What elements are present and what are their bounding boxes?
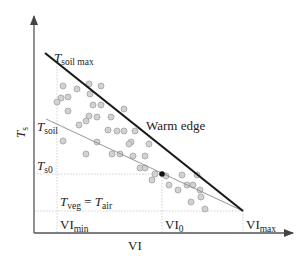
label-vimax: VImax [246, 217, 276, 234]
label-warm-edge: Warm edge [146, 118, 205, 133]
label-vi0: VI0 [165, 217, 184, 234]
label-ts0: Ts0 [37, 158, 53, 175]
highlight-point [159, 171, 165, 177]
y-axis-label: Ts [13, 127, 30, 138]
ts-vi-diagram: Ts VI Tsoil max Warm edge Tsoil Ts0 Tveg… [0, 0, 306, 260]
label-tsoil: Tsoil [37, 119, 58, 136]
label-vimin: VImin [60, 217, 89, 234]
label-tveg-equals-tair: Tveg = Tair [60, 194, 113, 211]
label-tsoil-max: Tsoil max [54, 50, 94, 67]
scatter-points [54, 81, 208, 212]
x-axis-label: VI [128, 238, 142, 253]
